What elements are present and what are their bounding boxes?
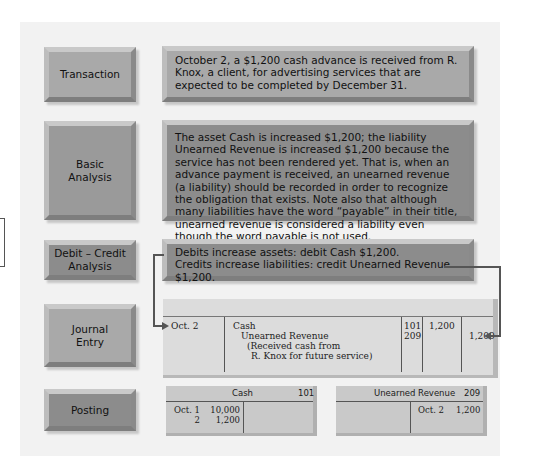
label-debit-credit-analysis: Debit – CreditAnalysis — [44, 240, 136, 280]
credit-connector-h — [444, 266, 501, 268]
arrow-left-icon — [484, 332, 491, 340]
journal-accounts: Cash Unearned Revenue (Received cash fro… — [233, 321, 372, 372]
t-account-unearned-title: Unearned Revenue — [374, 388, 455, 398]
journal-divider — [224, 317, 225, 372]
credit-connector-h2 — [490, 335, 501, 337]
label-je-line1: Journal — [72, 323, 108, 336]
basic-analysis-text: The asset Cash is increased $1,200; the … — [175, 131, 457, 242]
t-account-divider — [243, 401, 244, 433]
journal-debit-account: Cash — [233, 321, 372, 331]
journal-ref-unearned: 209 — [404, 331, 421, 341]
label-posting: Posting — [44, 389, 136, 431]
label-posting-text: Posting — [71, 404, 109, 417]
label-dc-line1: Debit – Credit — [54, 247, 126, 260]
label-journal-entry: JournalEntry — [44, 304, 136, 367]
transaction-text-box: October 2, a $1,200 cash advance is rece… — [162, 46, 474, 102]
credit-connector-v — [499, 266, 501, 337]
journal-explanation-line1: (Received cash from — [233, 341, 372, 351]
debit-rule-text: Debits increase assets: debit Cash $1,20… — [175, 246, 461, 258]
unearned-credit-date: Oct. 2 — [418, 405, 444, 415]
journal-entry-table: Oct. 2 Cash Unearned Revenue (Received c… — [163, 299, 498, 378]
cash-date-1: Oct. 1 — [170, 405, 200, 415]
t-account-unearned-revenue: Unearned Revenue 209 Oct. 2 1,200 — [336, 386, 487, 436]
transaction-text: October 2, a $1,200 cash advance is rece… — [175, 54, 457, 91]
t-account-cash-title: Cash — [232, 388, 253, 398]
t-account-cash-header: Cash 101 — [166, 386, 313, 402]
journal-explanation-line2: R. Knox for future service) — [233, 351, 372, 361]
label-basic-line2: Analysis — [68, 171, 111, 184]
cash-amount-1: 10,000 — [202, 405, 240, 415]
label-basic-line1: Basic — [68, 158, 111, 171]
label-dc-line2: Analysis — [54, 260, 126, 273]
journal-refs: 101 209 — [404, 321, 421, 372]
debit-connector-v — [153, 254, 155, 326]
label-basic-analysis: BasicAnalysis — [44, 121, 136, 220]
t-account-unearned-number: 209 — [464, 388, 480, 398]
journal-credit-account: Unearned Revenue — [233, 331, 372, 341]
journal-divider — [422, 317, 423, 372]
basic-analysis-text-box: The asset Cash is increased $1,200; the … — [162, 120, 474, 221]
cash-debit-amounts: 10,000 1,200 — [202, 405, 240, 425]
journal-header-band — [163, 299, 493, 317]
cash-date-2: 2 — [170, 415, 200, 425]
debit-credit-text-box: Debits increase assets: debit Cash $1,20… — [162, 239, 474, 281]
journal-divider — [401, 317, 402, 372]
journal-date: Oct. 2 — [171, 321, 198, 372]
unearned-credit-amount: 1,200 — [456, 405, 480, 415]
t-account-unearned-header: Unearned Revenue 209 — [336, 386, 483, 402]
edge-bracket — [0, 218, 5, 267]
t-account-cash-number: 101 — [298, 388, 314, 398]
arrow-right-icon — [162, 322, 169, 330]
label-transaction: Transaction — [44, 47, 136, 102]
cash-amount-2: 1,200 — [202, 415, 240, 425]
journal-ref-cash: 101 — [404, 321, 421, 331]
credit-rule-text: Credits increase liabilities: credit Une… — [175, 258, 461, 283]
label-transaction-text: Transaction — [60, 68, 120, 81]
cash-debit-dates: Oct. 1 2 — [170, 405, 200, 425]
journal-divider — [461, 317, 462, 372]
t-account-cash: Cash 101 Oct. 1 2 10,000 1,200 — [166, 386, 317, 436]
label-je-line2: Entry — [72, 336, 108, 349]
t-account-divider — [410, 401, 411, 433]
journal-debit-amount: 1,200 — [429, 321, 455, 372]
